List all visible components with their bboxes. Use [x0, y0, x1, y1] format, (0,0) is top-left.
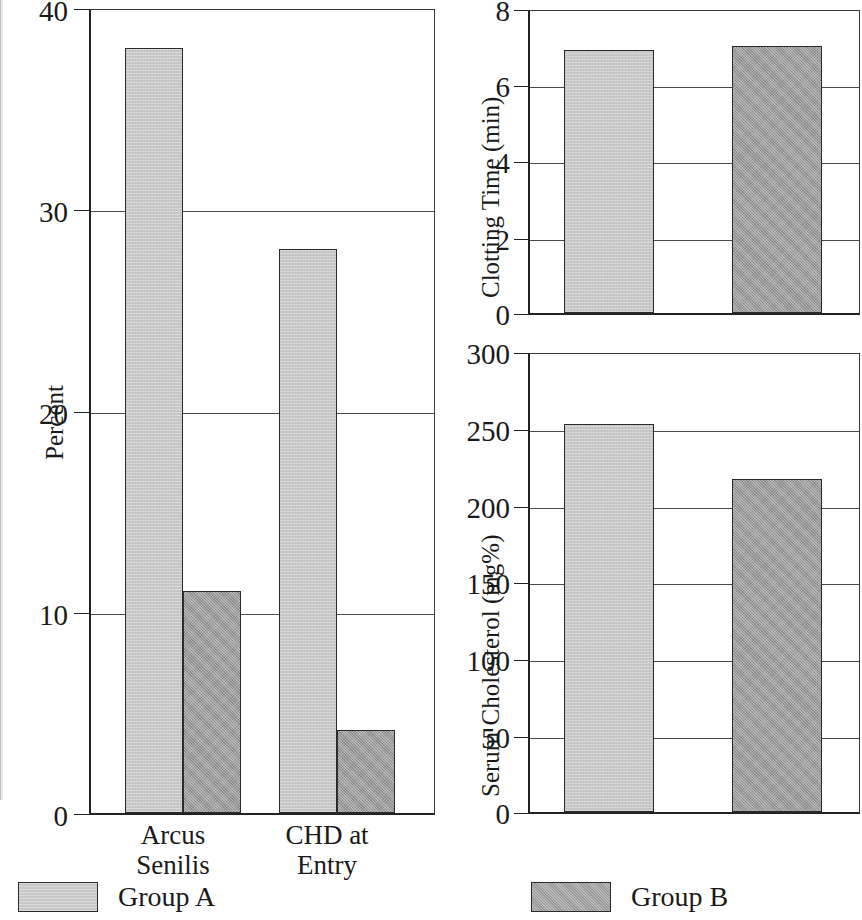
clotting-time-ytick-label-0: 0 — [456, 301, 510, 330]
percent-tick-40 — [74, 9, 90, 10]
bar-percent-arcus-group-a — [125, 48, 183, 813]
percent-plot-area — [89, 9, 435, 815]
bar-clotting-time-group-b — [732, 46, 822, 313]
percent-ytick-label-0: 0 — [10, 802, 68, 831]
percent-tick-0 — [74, 814, 90, 815]
clotting-time-panel: 8 6 4 2 0 Clotting Time (min) — [440, 0, 862, 330]
clotting-time-ytick-label-8: 8 — [456, 0, 510, 26]
clotting-time-tick-6 — [514, 86, 529, 87]
serum-cholesterol-ytick-label-300: 300 — [432, 340, 510, 369]
clotting-time-tick-8 — [514, 10, 529, 11]
serum-cholesterol-panel: 300 250 200 150 100 50 0 Serum Cholester… — [440, 330, 862, 830]
clotting-time-y-axis-title: Clotting Time (min) — [478, 97, 503, 298]
serum-cholesterol-plot-area — [528, 353, 860, 814]
clotting-time-tick-4 — [514, 162, 529, 163]
legend-swatch-group-b — [531, 882, 611, 912]
percent-panel: 40 30 20 10 0 Percent Arcus Senilis CHD … — [0, 0, 440, 880]
bar-clotting-time-group-a — [564, 50, 654, 313]
bar-serum-cholesterol-group-a — [564, 424, 654, 812]
percent-tick-10 — [74, 613, 90, 614]
serum-cholesterol-tick-150 — [514, 583, 529, 584]
serum-cholesterol-tick-100 — [514, 660, 529, 661]
percent-tick-30 — [74, 210, 90, 211]
clotting-time-tick-0 — [514, 314, 529, 315]
serum-cholesterol-tick-200 — [514, 507, 529, 508]
legend-label-group-a: Group A — [118, 883, 215, 911]
serum-cholesterol-ytick-label-0: 0 — [432, 800, 510, 829]
bar-percent-chd-group-b — [337, 730, 395, 813]
percent-tick-20 — [74, 412, 90, 413]
percent-ytick-label-10: 10 — [10, 601, 68, 630]
percent-y-axis-title: Percent — [42, 385, 67, 460]
serum-cholesterol-tick-50 — [514, 737, 529, 738]
clotting-time-plot-area — [528, 10, 860, 315]
serum-cholesterol-tick-300 — [514, 353, 529, 354]
multi-panel-bar-chart-figure: 40 30 20 10 0 Percent Arcus Senilis CHD … — [0, 0, 862, 920]
bar-percent-arcus-group-b — [183, 591, 241, 813]
percent-ytick-label-30: 30 — [10, 198, 68, 227]
serum-cholesterol-tick-0 — [514, 813, 529, 814]
serum-cholesterol-y-axis-title: Serum Cholesterol (mg%) — [478, 535, 503, 797]
legend-label-group-b: Group B — [631, 883, 728, 911]
serum-cholesterol-ytick-label-200: 200 — [432, 494, 510, 523]
serum-cholesterol-ytick-label-250: 250 — [432, 417, 510, 446]
legend-swatch-group-a — [18, 882, 98, 912]
figure-legend: Group A Group B — [0, 870, 862, 920]
serum-cholesterol-tick-250 — [514, 430, 529, 431]
bar-percent-chd-group-a — [279, 249, 337, 813]
percent-ytick-label-40: 40 — [10, 0, 68, 26]
clotting-time-tick-2 — [514, 239, 529, 240]
bar-serum-cholesterol-group-b — [732, 479, 822, 812]
